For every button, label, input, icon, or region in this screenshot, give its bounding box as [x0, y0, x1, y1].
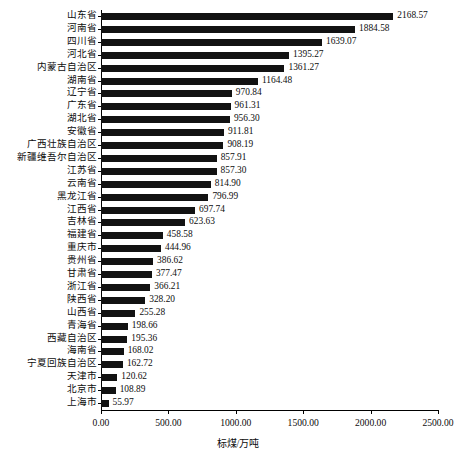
- bar: [101, 129, 224, 136]
- x-axis-tick-label: 500.00: [155, 416, 181, 429]
- bar-value-label: 1361.27: [288, 61, 318, 73]
- category-label: 河北省: [67, 47, 97, 60]
- bar-value-label: 120.62: [121, 370, 147, 382]
- bar-value-label: 195.36: [131, 332, 157, 344]
- category-label: 浙江省: [67, 279, 97, 292]
- category-label: 云南省: [67, 176, 97, 189]
- category-label: 青海省: [67, 318, 97, 331]
- bar-value-label: 970.84: [236, 86, 262, 98]
- bar-row: 黑龙江省796.99: [101, 191, 438, 204]
- bar-value-label: 796.99: [212, 190, 238, 202]
- bar: [101, 310, 135, 317]
- bar: [101, 168, 217, 175]
- bar-value-label: 814.90: [215, 177, 241, 189]
- x-axis-tick: [303, 410, 304, 414]
- bar-value-label: 1395.27: [293, 48, 323, 60]
- bar: [101, 65, 284, 72]
- x-axis-tick-label: 2000.00: [355, 416, 386, 429]
- category-label: 黑龙江省: [57, 189, 97, 202]
- bar-row: 辽宁省970.84: [101, 87, 438, 100]
- x-axis-tick-label: 1500.00: [288, 416, 319, 429]
- x-axis-title: 标煤/万吨: [0, 437, 476, 451]
- bar: [101, 142, 223, 149]
- bar-row: 江苏省857.30: [101, 165, 438, 178]
- bar-row: 北京市108.89: [101, 384, 438, 397]
- bar-value-label: 55.97: [113, 396, 134, 408]
- bar: [101, 400, 109, 407]
- category-label: 上海市: [67, 395, 97, 408]
- bar: [101, 13, 393, 20]
- category-label: 广东省: [67, 98, 97, 111]
- bar-value-label: 2168.57: [397, 9, 427, 21]
- category-label: 山东省: [67, 8, 97, 21]
- bar-row: 新疆维吾尔自治区857.91: [101, 152, 438, 165]
- bar-row: 湖南省1164.48: [101, 75, 438, 88]
- bar-row: 广西壮族自治区908.19: [101, 139, 438, 152]
- category-label: 内蒙古自治区: [37, 60, 97, 73]
- bar-value-label: 1884.58: [359, 22, 389, 34]
- bar-row: 吉林省623.63: [101, 216, 438, 229]
- bar-row: 上海市55.97: [101, 397, 438, 410]
- bar-value-label: 1639.07: [326, 35, 356, 47]
- x-axis-tick: [236, 410, 237, 414]
- bar-value-label: 255.28: [139, 306, 165, 318]
- bar: [101, 207, 195, 214]
- x-axis-line: [101, 410, 438, 411]
- category-label: 甘肃省: [67, 266, 97, 279]
- bar-value-label: 961.31: [235, 99, 261, 111]
- x-axis-tick: [371, 410, 372, 414]
- bar-value-label: 857.91: [221, 151, 247, 163]
- bar: [101, 194, 208, 201]
- category-label: 江苏省: [67, 163, 97, 176]
- category-label: 贵州省: [67, 253, 97, 266]
- category-label: 广西壮族自治区: [27, 137, 97, 150]
- bar: [101, 361, 123, 368]
- bar-chart: 山东省2168.57河南省1884.58四川省1639.07河北省1395.27…: [0, 0, 476, 464]
- bar-row: 天津市120.62: [101, 371, 438, 384]
- bar: [101, 26, 355, 33]
- x-axis-tick: [438, 410, 439, 414]
- bar-value-label: 198.66: [132, 319, 158, 331]
- category-label: 安徽省: [67, 124, 97, 137]
- plot-area: 山东省2168.57河南省1884.58四川省1639.07河北省1395.27…: [101, 10, 438, 410]
- bar-value-label: 623.63: [189, 215, 215, 227]
- category-label: 湖南省: [67, 73, 97, 86]
- category-label: 河南省: [67, 21, 97, 34]
- bar: [101, 336, 127, 343]
- bar-row: 四川省1639.07: [101, 36, 438, 49]
- bar-value-label: 1164.48: [262, 74, 292, 86]
- bar: [101, 348, 124, 355]
- category-label: 天津市: [67, 369, 97, 382]
- bar: [101, 219, 185, 226]
- bar-value-label: 458.58: [167, 228, 193, 240]
- category-label: 山西省: [67, 305, 97, 318]
- x-axis-tick: [101, 410, 102, 414]
- bar: [101, 387, 116, 394]
- bar: [101, 258, 153, 265]
- bar-value-label: 366.21: [154, 280, 180, 292]
- bar-row: 宁夏回族自治区162.72: [101, 358, 438, 371]
- bar: [101, 374, 117, 381]
- category-label: 海南省: [67, 343, 97, 356]
- bar: [101, 271, 152, 278]
- bar-row: 甘肃省377.47: [101, 268, 438, 281]
- bar: [101, 90, 232, 97]
- bar-value-label: 377.47: [156, 267, 182, 279]
- bar-value-label: 857.30: [221, 164, 247, 176]
- category-label: 四川省: [67, 34, 97, 47]
- bar: [101, 245, 161, 252]
- bar-row: 湖北省956.30: [101, 113, 438, 126]
- x-axis-tick-label: 2500.00: [422, 416, 453, 429]
- category-label: 辽宁省: [67, 85, 97, 98]
- bar-value-label: 162.72: [127, 357, 153, 369]
- bar: [101, 181, 211, 188]
- category-label: 北京市: [67, 382, 97, 395]
- bar-row: 安徽省911.81: [101, 126, 438, 139]
- x-axis-tick-label: 1000.00: [220, 416, 251, 429]
- bar: [101, 52, 289, 59]
- x-axis-tick-label: 0.00: [93, 416, 110, 429]
- bar-row: 云南省814.90: [101, 178, 438, 191]
- bar-row: 江西省697.74: [101, 204, 438, 217]
- category-label: 宁夏回族自治区: [27, 356, 97, 369]
- bar-value-label: 386.62: [157, 254, 183, 266]
